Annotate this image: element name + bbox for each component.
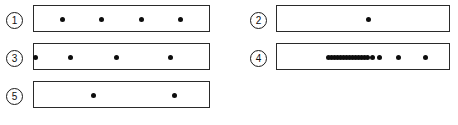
data-point [172, 93, 177, 98]
data-point [33, 55, 38, 60]
panel-label-2: 2 [250, 12, 267, 29]
data-point [68, 55, 73, 60]
data-point [377, 55, 382, 60]
data-point [365, 55, 370, 60]
data-point [423, 55, 428, 60]
data-point [366, 17, 371, 22]
data-point [370, 55, 375, 60]
data-point [91, 93, 96, 98]
panel-box-2 [276, 5, 450, 32]
panel-label-4: 4 [250, 50, 267, 67]
panel-label-3: 3 [6, 50, 23, 67]
panel-box-3 [33, 43, 210, 70]
data-point [99, 17, 104, 22]
data-point [396, 55, 401, 60]
panel-box-5 [33, 81, 210, 108]
figure-root: 12345 [0, 0, 458, 125]
data-point [178, 17, 183, 22]
panel-label-5: 5 [6, 88, 23, 105]
data-point [139, 17, 144, 22]
data-point [114, 55, 119, 60]
data-point [168, 55, 173, 60]
data-point [60, 17, 65, 22]
panel-label-1: 1 [6, 12, 23, 29]
